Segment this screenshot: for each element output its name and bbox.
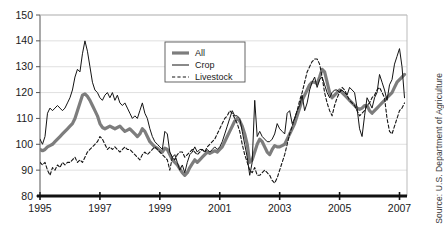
y-tick-label: 120 bbox=[15, 86, 33, 98]
y-tick-label: 100 bbox=[15, 138, 33, 150]
y-axis-ticks bbox=[36, 15, 40, 196]
x-tick-label: 1995 bbox=[28, 202, 52, 214]
y-tick-label: 90 bbox=[21, 164, 33, 176]
y-tick-label: 130 bbox=[15, 60, 33, 72]
series-line-all bbox=[40, 69, 405, 175]
x-tick-label: 2001 bbox=[208, 202, 232, 214]
x-tick-label: 2005 bbox=[328, 202, 352, 214]
y-tick-label: 110 bbox=[16, 112, 33, 124]
y-tick-label: 80 bbox=[21, 190, 33, 202]
legend-label-crop: Crop bbox=[195, 60, 215, 70]
source-note: Source: U.S. Department of Agriculture bbox=[434, 73, 444, 224]
y-tick-label: 140 bbox=[15, 34, 33, 46]
x-axis-labels: 1995199719992001200320052007 bbox=[28, 202, 411, 214]
x-tick-label: 1999 bbox=[148, 202, 172, 214]
line-chart: 8090100110120130140150 19951997199920012… bbox=[0, 0, 445, 230]
y-tick-label: 150 bbox=[15, 9, 33, 21]
chart-legend: AllCropLivestock bbox=[165, 42, 245, 82]
x-tick-label: 1997 bbox=[88, 202, 112, 214]
legend-label-livestock: Livestock bbox=[195, 72, 233, 82]
legend-label-all: All bbox=[195, 48, 205, 58]
y-axis-labels: 8090100110120130140150 bbox=[15, 9, 33, 202]
x-tick-label: 2003 bbox=[268, 202, 292, 214]
chart-container: 8090100110120130140150 19951997199920012… bbox=[0, 0, 445, 230]
x-tick-label: 2007 bbox=[388, 202, 412, 214]
